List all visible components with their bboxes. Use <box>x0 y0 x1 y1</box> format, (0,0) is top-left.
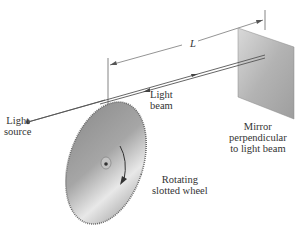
label-mirror: Mirror perpendicular to light beam <box>229 121 287 154</box>
arrowhead-right-icon <box>256 20 263 24</box>
mirror <box>238 28 294 119</box>
label-light-beam: Light beam <box>150 89 173 111</box>
rotating-slotted-wheel <box>51 92 160 235</box>
label-wheel: Rotating slotted wheel <box>152 174 208 196</box>
arrowhead-left-icon <box>110 61 117 65</box>
label-distance: L <box>190 38 196 49</box>
label-light-source: Light source <box>4 115 31 137</box>
diagram-canvas <box>0 0 304 239</box>
